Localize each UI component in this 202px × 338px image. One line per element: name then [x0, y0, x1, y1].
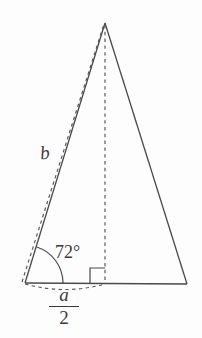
geometry-figure: b 72° a 2 — [0, 0, 202, 338]
triangle-diagram-svg — [0, 0, 202, 338]
fraction-denominator-2: 2 — [47, 308, 81, 328]
fraction-numerator-a: a — [47, 286, 81, 304]
base-angle-label: 72° — [55, 243, 80, 261]
half-base-fraction-label: a 2 — [47, 286, 81, 328]
right-angle-marker — [90, 268, 105, 283]
right-side-line — [105, 23, 187, 284]
side-b-label: b — [39, 143, 50, 163]
base-line — [25, 283, 187, 284]
